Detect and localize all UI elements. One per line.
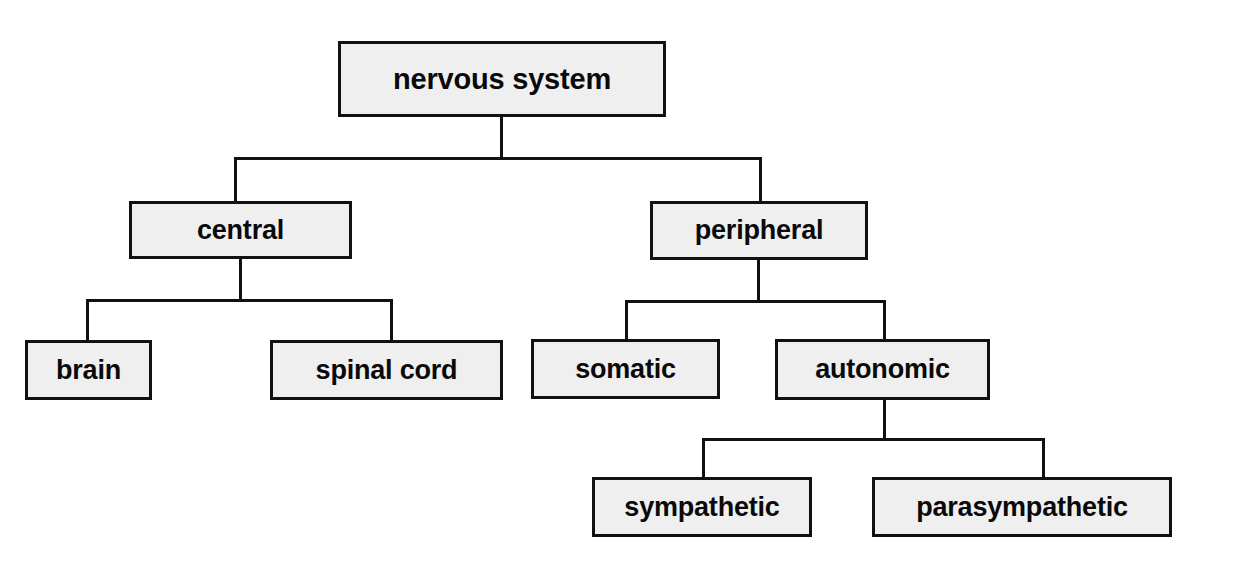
node-brain[interactable]: brain xyxy=(25,340,152,400)
connector-root-to-peripheral xyxy=(759,157,762,203)
node-nervous-system[interactable]: nervous system xyxy=(338,41,666,117)
connector-peripheral-to-somatic xyxy=(625,300,628,342)
node-peripheral[interactable]: peripheral xyxy=(650,201,868,260)
node-central[interactable]: central xyxy=(129,201,352,259)
node-label-spinal-cord: spinal cord xyxy=(316,357,458,384)
connector-peripheral-to-autonomic xyxy=(883,300,886,342)
node-label-parasympathetic: parasympathetic xyxy=(916,494,1128,521)
node-spinal-cord[interactable]: spinal cord xyxy=(270,340,503,400)
node-parasympathetic[interactable]: parasympathetic xyxy=(872,477,1172,537)
connector-root-to-central xyxy=(234,157,237,203)
connector-autonomic-drop xyxy=(883,400,886,441)
node-autonomic[interactable]: autonomic xyxy=(775,339,990,400)
nervous-system-diagram: nervous system central peripheral brain … xyxy=(0,0,1242,562)
connector-peripheral-drop xyxy=(757,259,760,303)
node-somatic[interactable]: somatic xyxy=(531,339,720,399)
connector-root-bar xyxy=(234,157,762,160)
node-label-autonomic: autonomic xyxy=(815,356,950,383)
node-label-peripheral: peripheral xyxy=(695,217,824,244)
node-sympathetic[interactable]: sympathetic xyxy=(592,477,812,537)
node-label-sympathetic: sympathetic xyxy=(624,494,779,521)
connector-central-drop xyxy=(239,258,242,302)
connector-central-to-brain xyxy=(86,299,89,342)
node-label-central: central xyxy=(197,217,284,244)
connector-root-drop xyxy=(500,116,503,160)
node-label-nervous-system: nervous system xyxy=(393,65,611,94)
connector-peripheral-bar xyxy=(625,300,886,303)
connector-autonomic-to-sympathetic xyxy=(702,438,705,479)
node-label-brain: brain xyxy=(56,357,121,384)
connector-autonomic-bar xyxy=(702,438,1045,441)
node-label-somatic: somatic xyxy=(575,356,676,383)
connector-central-bar xyxy=(86,299,393,302)
connector-autonomic-to-parasympathetic xyxy=(1042,438,1045,479)
connector-central-to-spinal-cord xyxy=(390,299,393,342)
